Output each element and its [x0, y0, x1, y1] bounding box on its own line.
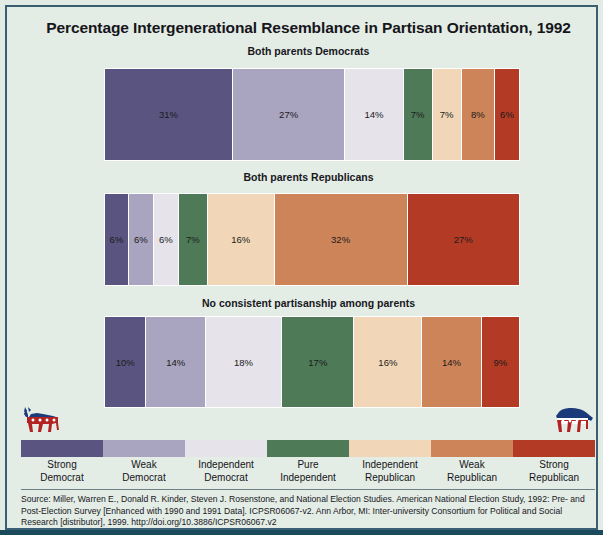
bar-segment-independent-democrat: 18%	[206, 316, 282, 408]
bar-segment-weak-republican: 8%	[462, 68, 495, 161]
legend-label-strong-democrat: StrongDemocrat	[21, 459, 103, 484]
bar-segment-value: 7%	[411, 109, 425, 120]
elephant-icon	[550, 405, 594, 435]
legend-label-line1: Independent	[185, 459, 267, 472]
legend-label-line2: Republican	[349, 472, 431, 485]
chart-title: Percentage Intergenerational Resemblance…	[7, 19, 603, 37]
bar-segment-value: 6%	[110, 234, 124, 245]
page-bottom-bar	[0, 530, 603, 535]
bar-segment-independent-democrat: 6%	[154, 193, 179, 286]
legend-label-row: StrongDemocratWeakDemocratIndependentDem…	[21, 459, 595, 484]
bar-segment-weak-democrat: 14%	[146, 316, 205, 408]
legend-swatch-pure-independent	[267, 440, 349, 457]
bar-segment-value: 14%	[442, 357, 461, 368]
legend-swatch-independent-republican	[349, 440, 431, 457]
bar-segment-value: 27%	[279, 109, 298, 120]
source-divider	[21, 489, 595, 490]
legend-swatch-row	[21, 440, 595, 457]
legend-label-line1: Strong	[513, 459, 595, 472]
bar-segment-independent-republican: 16%	[354, 316, 422, 408]
bar-segment-independent-democrat: 14%	[345, 68, 403, 161]
bar-segment-strong-republican: 6%	[495, 68, 520, 161]
bar-segment-strong-democrat: 6%	[104, 193, 129, 286]
legend-label-independent-democrat: IndependentDemocrat	[185, 459, 267, 484]
bar-segment-value: 31%	[159, 109, 178, 120]
legend-swatch-strong-republican	[513, 440, 595, 457]
bar-segment-value: 6%	[500, 109, 514, 120]
bar-segment-value: 6%	[134, 234, 148, 245]
bar-segment-value: 14%	[166, 357, 185, 368]
legend-label-line1: Pure	[267, 459, 349, 472]
legend-label-strong-republican: StrongRepublican	[513, 459, 595, 484]
donkey-icon	[21, 405, 65, 435]
bar-segment-independent-republican: 7%	[433, 68, 462, 161]
bar-segment-value: 16%	[378, 357, 397, 368]
bar-segment-pure-independent: 7%	[179, 193, 208, 286]
legend-label-line2: Republican	[431, 472, 513, 485]
bar-segment-weak-republican: 14%	[422, 316, 481, 408]
bar-segment-strong-democrat: 10%	[104, 316, 146, 408]
legend-label-line2: Independent	[267, 472, 349, 485]
stacked-bar-no-consistent: 10%14%18%17%16%14%9%	[104, 316, 520, 408]
bar-segment-value: 8%	[471, 109, 485, 120]
legend-label-line2: Democrat	[103, 472, 185, 485]
bar-segment-strong-republican: 27%	[408, 193, 520, 286]
stacked-bar-both-democrats: 31%27%14%7%7%8%6%	[104, 68, 520, 161]
bar-segment-value: 27%	[454, 234, 473, 245]
bar-segment-value: 7%	[186, 234, 200, 245]
bar-segment-pure-independent: 17%	[282, 316, 354, 408]
legend-label-line2: Democrat	[185, 472, 267, 485]
bar-segment-value: 18%	[234, 357, 253, 368]
bar-segment-weak-democrat: 27%	[233, 68, 345, 161]
legend-swatch-weak-democrat	[103, 440, 185, 457]
legend-label-weak-democrat: WeakDemocrat	[103, 459, 185, 484]
legend-swatch-strong-democrat	[21, 440, 103, 457]
bar-segment-value: 6%	[159, 234, 173, 245]
panel-title-both-republicans: Both parents Republicans	[7, 171, 603, 183]
bar-segment-strong-democrat: 31%	[104, 68, 233, 161]
bar-segment-independent-republican: 16%	[208, 193, 275, 286]
legend-label-line1: Weak	[103, 459, 185, 472]
bar-segment-weak-republican: 32%	[275, 193, 408, 286]
bar-segment-value: 17%	[308, 357, 327, 368]
legend-swatch-independent-democrat	[185, 440, 267, 457]
source-note: Source: Miller, Warren E., Donald R. Kin…	[21, 494, 599, 529]
bar-segment-value: 10%	[116, 357, 135, 368]
bar-segment-pure-independent: 7%	[404, 68, 433, 161]
bar-segment-weak-democrat: 6%	[129, 193, 154, 286]
legend-label-line2: Republican	[513, 472, 595, 485]
bar-segment-strong-republican: 9%	[482, 316, 520, 408]
legend-label-line1: Weak	[431, 459, 513, 472]
chart-frame: Percentage Intergenerational Resemblance…	[5, 5, 598, 530]
legend-label-line1: Strong	[21, 459, 103, 472]
legend-label-weak-republican: WeakRepublican	[431, 459, 513, 484]
stacked-bar-both-republicans: 6%6%6%7%16%32%27%	[104, 193, 520, 286]
legend-label-independent-republican: IndependentRepublican	[349, 459, 431, 484]
bar-segment-value: 16%	[231, 234, 250, 245]
bar-segment-value: 9%	[493, 357, 507, 368]
chart-page: Percentage Intergenerational Resemblance…	[0, 0, 603, 535]
legend-swatch-weak-republican	[431, 440, 513, 457]
legend-label-line1: Independent	[349, 459, 431, 472]
panel-title-both-democrats: Both parents Democrats	[7, 45, 603, 57]
panel-title-no-consistent: No consistent partisanship among parents	[7, 297, 603, 309]
legend-label-pure-independent: PureIndependent	[267, 459, 349, 484]
bar-segment-value: 7%	[440, 109, 454, 120]
bar-segment-value: 32%	[331, 234, 350, 245]
bar-segment-value: 14%	[364, 109, 383, 120]
legend-label-line2: Democrat	[21, 472, 103, 485]
